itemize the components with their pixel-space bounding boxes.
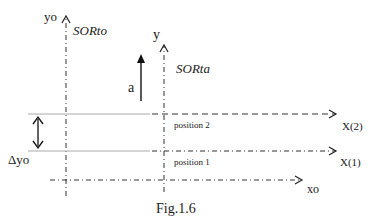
position-2-label: position 2 <box>174 120 210 130</box>
position-1-label: position 1 <box>174 157 210 167</box>
acceleration-arrow-icon <box>137 54 145 101</box>
displacement-double-arrow-icon <box>33 117 43 148</box>
sorta-label: SORta <box>176 61 210 76</box>
displacement-label: Δyo <box>8 152 29 167</box>
acceleration-label: a <box>128 80 135 95</box>
y-axis-label: y <box>153 27 160 42</box>
yo-axis-label: yo <box>44 9 57 24</box>
sorto-label: SORto <box>73 23 107 38</box>
xo-axis-label: xo <box>307 182 319 196</box>
x2-axis-label: X(2) <box>342 120 363 133</box>
frame-diagram: yo SORto y SORta a position 2 X(2) posit… <box>0 0 374 218</box>
x1-axis-label: X(1) <box>340 156 361 169</box>
figure-caption: Fig.1.6 <box>156 201 196 216</box>
